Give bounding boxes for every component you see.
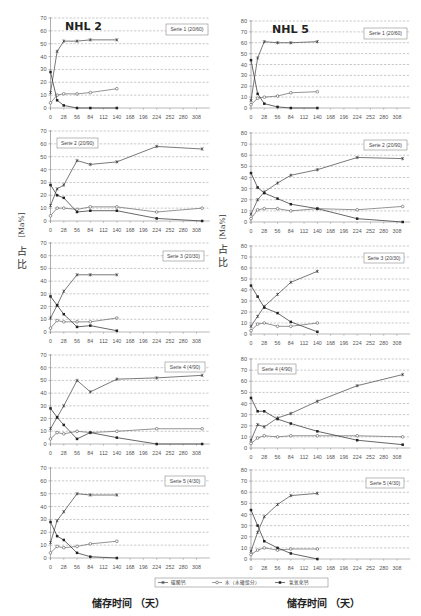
circle-icon [316, 90, 319, 93]
circle-icon [155, 427, 158, 430]
series-water-hydraulic [250, 434, 404, 444]
circle-icon [316, 434, 319, 437]
x-tick-label: 168 [326, 114, 335, 120]
circle-icon [289, 91, 292, 94]
x-tick-label: 280 [179, 564, 188, 570]
x-tick-label: 280 [379, 565, 388, 571]
x-tick-label: 280 [179, 338, 188, 344]
series-calcium-carbonate [250, 492, 319, 553]
x-tick-label: 56 [74, 450, 80, 456]
series-legend-label: Serie 5 (4/30) [370, 480, 401, 486]
x-tick-label: 168 [126, 564, 135, 570]
x-tick-label: 28 [61, 338, 67, 344]
x-tick-label: 308 [192, 338, 201, 344]
chart-nhl-2-serie-4: 0102030405060700285684112140168196224252… [40, 352, 209, 456]
series-legend-label: Serie 1 (20/60) [170, 26, 203, 32]
circle-icon [56, 431, 59, 434]
asterisk-icon [250, 550, 253, 553]
x-tick-label: 112 [99, 227, 107, 233]
y-tick-label: 50 [241, 51, 247, 57]
x-tick-label: 0 [250, 565, 253, 571]
x-tick-label: 0 [49, 114, 52, 120]
y-tick-label: 40 [241, 512, 247, 518]
square-icon [263, 540, 266, 543]
square-icon [256, 93, 259, 96]
square-icon [49, 71, 52, 74]
square-icon [89, 555, 92, 558]
x-tick-label: 140 [313, 114, 322, 120]
square-icon [276, 312, 279, 315]
x-tick-label: 84 [288, 340, 294, 346]
square-icon [276, 547, 279, 550]
y-tick-label: 70 [241, 254, 247, 260]
circle-icon [276, 325, 279, 328]
x-tick-label: 308 [393, 228, 402, 234]
x-tick-label: 252 [166, 114, 175, 120]
x-tick-label: 280 [379, 114, 388, 120]
y-tick-label: 60 [241, 489, 247, 495]
x-tick-label: 280 [179, 450, 188, 456]
y-tick-label: 50 [241, 276, 247, 282]
series-legend-label: Serie 3 (20/30) [367, 255, 400, 261]
x-tick-label: 140 [313, 228, 322, 234]
y-tick-label: 30 [241, 523, 247, 529]
x-tick-label: 224 [152, 564, 161, 570]
circle-icon [356, 434, 359, 437]
x-tick-label: 0 [49, 450, 52, 456]
y-tick-label: 0 [244, 445, 247, 451]
panel-title-nhl2: NHL 2 [65, 21, 102, 33]
x-tick-label: 56 [74, 564, 80, 570]
square-icon [49, 184, 52, 187]
series-calcium-carbonate [250, 156, 404, 216]
series-line [51, 541, 117, 553]
series-line [51, 296, 117, 330]
circle-icon [256, 97, 259, 100]
chart-nhl-5-serie-2: 0102030405060708002856841121401681962242… [241, 130, 410, 234]
circle-icon [276, 95, 279, 98]
square-icon [49, 295, 52, 298]
circle-icon [76, 93, 79, 96]
y-tick-label: 70 [241, 29, 247, 35]
circle-icon [263, 207, 266, 210]
x-tick-label: 112 [99, 564, 107, 570]
x-tick-label: 28 [61, 227, 67, 233]
y-tick-label: 10 [40, 205, 46, 211]
x-tick-label: 280 [179, 114, 188, 120]
x-tick-label: 308 [393, 114, 402, 120]
circle-icon [256, 208, 259, 211]
x-tick-label: 168 [326, 340, 335, 346]
x-tick-label: 196 [139, 450, 148, 456]
asterisk-icon [250, 99, 253, 102]
circle-icon [289, 548, 292, 551]
x-tick-label: 112 [300, 340, 308, 346]
circle-icon [62, 546, 65, 549]
square-icon [49, 521, 52, 524]
square-icon [290, 321, 293, 324]
series-calcium-hydroxide [250, 284, 319, 333]
y-tick-label: 40 [40, 54, 46, 60]
series-calcium-carbonate [250, 373, 404, 442]
y-tick-label: 30 [40, 291, 46, 297]
x-tick-label: 308 [393, 340, 402, 346]
asterisk-icon [56, 187, 59, 190]
asterisk-icon [276, 503, 279, 506]
y-axis-unit-left: [Ma%] [17, 210, 27, 240]
square-icon [76, 107, 79, 110]
x-tick-label: 56 [275, 114, 281, 120]
x-tick-label: 84 [87, 564, 93, 570]
x-tick-label: 168 [126, 227, 135, 233]
circle-icon [116, 87, 119, 90]
y-tick-label: 60 [241, 152, 247, 158]
series-calcium-carbonate [49, 273, 118, 320]
asterisk-icon [256, 56, 259, 59]
square-icon [56, 535, 59, 538]
square-icon [356, 217, 359, 220]
x-tick-label: 224 [353, 228, 362, 234]
square-icon [356, 439, 359, 442]
circle-icon [250, 103, 253, 106]
circle-icon [289, 325, 292, 328]
series-line [251, 42, 317, 101]
square-icon [256, 524, 259, 527]
y-tick-label: 50 [241, 500, 247, 506]
square-icon [263, 410, 266, 413]
